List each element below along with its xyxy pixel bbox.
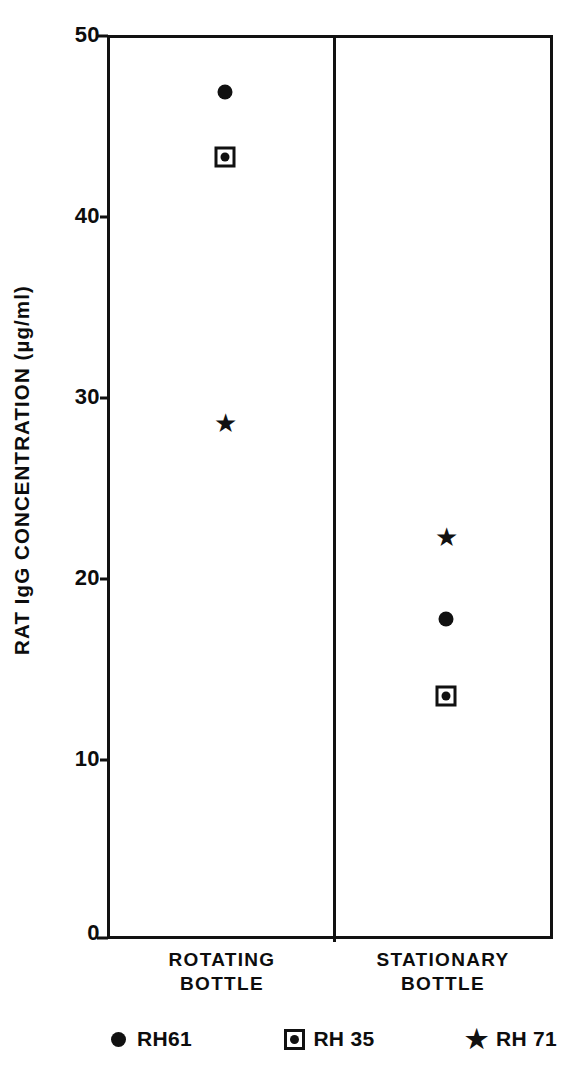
y-tick-label-40: 40	[38, 203, 100, 229]
legend-label-rh71: RH 71	[496, 1027, 557, 1051]
legend-swatch-square-with-dot-icon	[283, 1028, 305, 1050]
x-axis-group-label-stationary: STATIONARY BOTTLE	[377, 948, 510, 997]
filled-circle-icon	[111, 1032, 126, 1047]
legend-item-rh61[interactable]: RH61	[107, 1027, 192, 1051]
data-point-rh61-stationary[interactable]	[439, 612, 454, 627]
data-point-rh71-stationary[interactable]: ★	[434, 525, 459, 550]
y-axis-tick-labels: 50 40 30 20 10 0	[30, 0, 100, 1000]
data-point-rh61-rotating[interactable]	[218, 85, 233, 100]
y-tick-label-50: 50	[38, 22, 100, 48]
data-point-rh35-rotating[interactable]	[215, 147, 236, 168]
legend-label-rh61: RH61	[137, 1027, 192, 1051]
plot-area: ★ ★	[107, 35, 553, 939]
scatter-plot-figure: RAT IgG CONCENTRATION (µg/ml) 50 40 30 2…	[0, 0, 575, 1074]
y-tick-label-20: 20	[38, 565, 100, 591]
square-with-dot-icon	[284, 1029, 305, 1050]
legend-item-rh35[interactable]: RH 35	[283, 1027, 374, 1051]
data-point-rh35-stationary[interactable]	[436, 686, 457, 707]
panel-divider	[333, 38, 336, 942]
filled-star-icon: ★	[465, 1027, 488, 1052]
x-axis-group-label-rotating: ROTATING BOTTLE	[169, 948, 276, 997]
y-tick-label-30: 30	[38, 384, 100, 410]
legend-label-rh35: RH 35	[313, 1027, 374, 1051]
legend-item-rh71[interactable]: ★ RH 71	[466, 1027, 557, 1051]
legend-swatch-filled-circle-icon	[107, 1028, 129, 1050]
y-tick-label-0: 0	[38, 920, 100, 946]
data-point-rh71-rotating[interactable]: ★	[213, 411, 238, 436]
y-tick-label-10: 10	[38, 746, 100, 772]
legend: RH61 RH 35 ★ RH 71	[107, 1022, 557, 1056]
legend-swatch-filled-star-icon: ★	[466, 1028, 488, 1050]
